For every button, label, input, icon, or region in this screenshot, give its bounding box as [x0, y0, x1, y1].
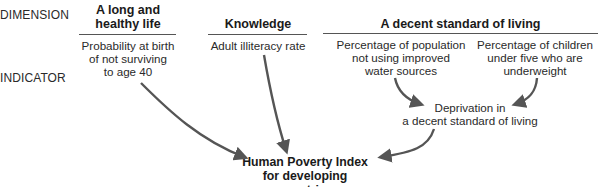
- arrow-water-to-deprivation: [395, 78, 420, 104]
- arrow-underweight-to-deprivation: [516, 78, 537, 104]
- arrow-deprivation-to-hpi: [382, 129, 434, 157]
- arrows-layer: [0, 0, 605, 187]
- arrow-survival-to-hpi: [141, 83, 244, 157]
- arrow-illiteracy-to-hpi: [264, 55, 286, 150]
